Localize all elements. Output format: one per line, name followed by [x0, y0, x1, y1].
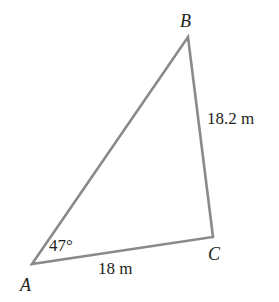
vertex-label-b: B: [180, 12, 191, 30]
triangle-figure: [0, 0, 279, 302]
side-bc-label: 18.2 m: [207, 110, 254, 127]
side-ac-label: 18 m: [98, 260, 132, 277]
triangle-abc: [32, 37, 213, 264]
angle-a-label: 47°: [49, 237, 73, 254]
vertex-label-c: C: [208, 245, 220, 263]
vertex-label-a: A: [20, 276, 31, 294]
